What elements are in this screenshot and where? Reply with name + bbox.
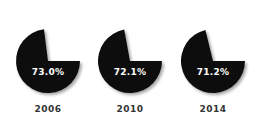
pie-value-2014: 71.2% bbox=[183, 67, 243, 77]
pie-value-2010: 72.1% bbox=[100, 67, 160, 77]
pie-value-2006: 73.0% bbox=[18, 67, 78, 77]
pie-slice-2010 bbox=[98, 30, 162, 93]
year-label-2006: 2006 bbox=[18, 104, 78, 114]
pie-slice-2006 bbox=[16, 29, 80, 93]
pie-slice-2014 bbox=[181, 30, 245, 93]
pie-chart-group: 73.0% 72.1% 71.2% 2006 2010 2014 bbox=[0, 0, 256, 126]
year-label-2014: 2014 bbox=[183, 104, 243, 114]
year-label-2010: 2010 bbox=[100, 104, 160, 114]
